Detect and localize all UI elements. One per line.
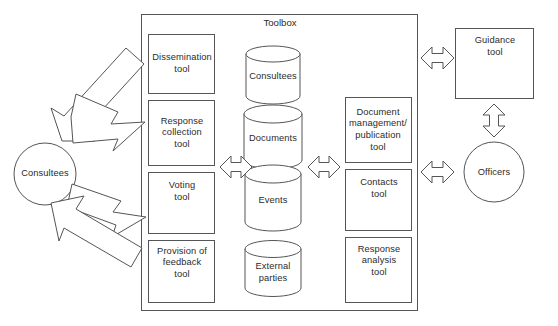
provision-of-feedback-tool-box[interactable]	[149, 241, 215, 303]
diagram-shapes	[0, 0, 558, 326]
response-analysis-tool-box[interactable]	[346, 238, 412, 303]
dissemination-tool-box[interactable]	[149, 35, 215, 94]
document-management-publication-tool-box[interactable]	[346, 98, 412, 163]
events-store-shape[interactable]	[245, 165, 301, 231]
external-parties-store-shape[interactable]	[245, 241, 301, 297]
toolbox-to-officers-arrow	[421, 161, 454, 183]
voting-tool-box[interactable]	[149, 173, 215, 234]
toolbox-to-guidance-arrow	[421, 47, 454, 69]
officers-actor-circle[interactable]	[464, 142, 524, 202]
diagram-canvas: Toolbox Dissemination tool Response coll…	[0, 0, 558, 326]
guidance-tool-box[interactable]	[456, 29, 534, 99]
contacts-tool-box[interactable]	[346, 170, 412, 231]
guidance-to-officers-arrow	[483, 104, 505, 137]
response-collection-tool-box[interactable]	[149, 101, 215, 166]
consultees-store-shape[interactable]	[246, 46, 300, 104]
toolbox-title: Toolbox	[135, 17, 425, 28]
consultees-actor-circle[interactable]	[14, 143, 76, 205]
documents-store-shape[interactable]	[244, 105, 302, 169]
